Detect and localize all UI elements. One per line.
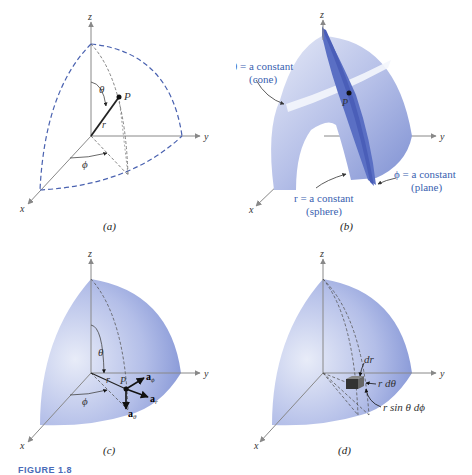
sphere-sublabel: (sphere): [306, 205, 342, 218]
y-label: y: [203, 368, 209, 379]
caption-b: (b): [340, 220, 353, 233]
volume-element-cube: [346, 376, 364, 389]
caption-d: (d): [338, 444, 351, 457]
plane-label: ϕ = a constant: [394, 168, 456, 180]
z-label: z: [319, 9, 324, 20]
point-p-label: P: [123, 90, 131, 102]
z-label: z: [319, 248, 324, 259]
plane-sublabel: (plane): [411, 181, 442, 194]
figure-caption: FIGURE 1.8: [18, 465, 72, 475]
point-p-label: P: [341, 97, 348, 108]
sphere-label: r = a constant: [294, 192, 354, 204]
point-p: [347, 91, 352, 96]
cone-sublabel: (cone): [249, 73, 277, 86]
x-label: x: [253, 440, 259, 451]
panel-c: z y x θ r P ϕ aϕ ar aθ (c): [0, 237, 236, 474]
x-axis: [28, 136, 91, 204]
y-label: y: [439, 368, 445, 379]
y-label: y: [439, 131, 445, 142]
x-label: x: [19, 440, 25, 451]
r-sin-theta-dphi-label: r sin θ dϕ: [383, 401, 425, 413]
panel-d: z y x dr r dθ r sin θ dϕ (d): [236, 237, 472, 474]
point-p-label: P: [119, 375, 126, 386]
sphere-octant: [40, 279, 181, 425]
phi-label: ϕ: [82, 158, 88, 170]
theta-label: θ: [98, 346, 104, 358]
panel-a: z y x θ P r ϕ (a): [0, 0, 236, 237]
caption-a: (a): [103, 220, 116, 233]
r-vector: [91, 97, 119, 136]
phi-label: ϕ: [82, 395, 88, 407]
z-label: z: [87, 248, 92, 259]
panel-b: z y x P θ = a constant (cone) r = a cons…: [236, 0, 472, 237]
volume-element-diagram: z y x dr r dθ r sin θ dϕ (d): [236, 237, 472, 475]
spherical-coordinates-diagram: z y x θ P r ϕ (a): [0, 0, 236, 237]
cone-label: θ = a constant: [236, 60, 293, 72]
caption-c: (c): [103, 444, 116, 457]
dr-label: dr: [364, 353, 375, 365]
r-dtheta-label: r dθ: [378, 377, 397, 389]
x-label: x: [19, 203, 25, 214]
x-label: x: [248, 204, 254, 215]
r-label: r: [102, 119, 106, 130]
coordinate-surfaces-diagram: z y x P θ = a constant (cone) r = a cons…: [236, 0, 472, 237]
unit-vectors-diagram: z y x θ r P ϕ aϕ ar aθ (c): [0, 237, 236, 475]
point-p: [117, 95, 122, 100]
y-label: y: [203, 131, 209, 142]
z-label: z: [87, 11, 92, 22]
r-label: r: [106, 374, 110, 385]
theta-label: θ: [99, 83, 105, 95]
